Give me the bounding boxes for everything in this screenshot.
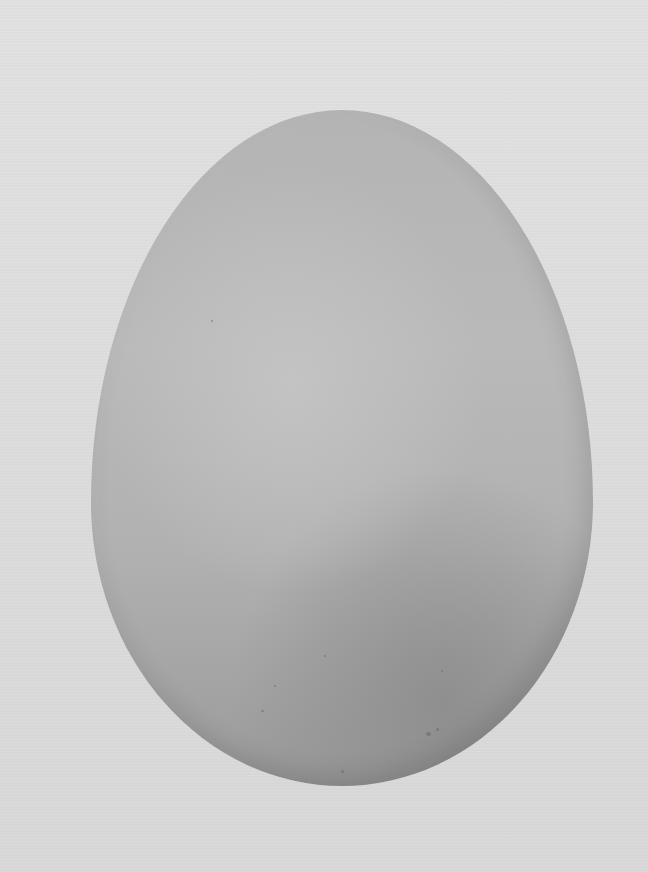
photo-canvas — [0, 0, 648, 872]
speckle — [426, 732, 431, 736]
egg — [91, 110, 593, 786]
speckle — [274, 685, 276, 687]
speckle — [341, 770, 344, 773]
speckle — [261, 710, 264, 712]
speckle — [324, 655, 326, 657]
speckle — [436, 728, 439, 731]
speckle — [211, 320, 213, 322]
speckle — [441, 670, 443, 672]
